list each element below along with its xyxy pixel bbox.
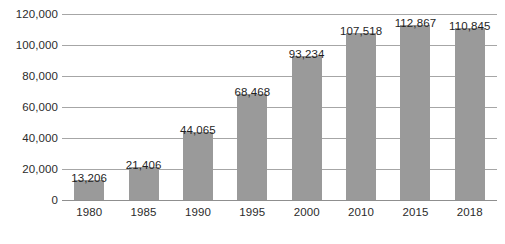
bar-group: 13,206	[62, 14, 116, 200]
x-axis-tick-label: 1980	[62, 206, 116, 218]
bar-group: 44,065	[171, 14, 225, 200]
bar-value-label: 13,206	[71, 172, 107, 184]
bar-group: 21,406	[116, 14, 170, 200]
bar-value-label: 21,406	[126, 159, 162, 171]
y-axis-tick-label: 0	[0, 194, 58, 206]
bar-group: 68,468	[225, 14, 279, 200]
bar-value-label: 110,845	[449, 20, 490, 32]
bar-value-label: 112,867	[395, 17, 436, 29]
x-axis-tick-label: 2010	[334, 206, 388, 218]
x-axis-tick-label: 2018	[443, 206, 497, 218]
y-axis-tick-label: 100,000	[0, 39, 58, 51]
bar-value-label: 107,518	[340, 25, 382, 37]
y-axis-tick-label: 40,000	[0, 132, 58, 144]
bar-chart: 020,00040,00060,00080,000100,000120,000 …	[0, 0, 505, 244]
bar-value-label: 44,065	[180, 124, 216, 136]
bar-value-label: 93,234	[289, 48, 325, 60]
bar	[129, 167, 159, 200]
bar	[455, 28, 485, 200]
x-axis-tick-label: 2015	[388, 206, 442, 218]
plot-area: 13,20621,40644,06568,46893,234107,518112…	[62, 14, 497, 200]
bar-group: 112,867	[388, 14, 442, 200]
y-axis-tick-label: 80,000	[0, 70, 58, 82]
y-axis-tick-label: 20,000	[0, 163, 58, 175]
x-axis-tick-label: 1995	[225, 206, 279, 218]
bar	[346, 33, 376, 200]
bar-value-label: 68,468	[234, 86, 270, 98]
bar-group: 110,845	[443, 14, 497, 200]
bar	[183, 132, 213, 200]
y-axis-tick-label: 120,000	[0, 8, 58, 20]
bar	[292, 56, 322, 201]
bar	[237, 94, 267, 200]
bar	[400, 25, 430, 200]
bar-group: 93,234	[280, 14, 334, 200]
x-axis-tick-label: 1985	[116, 206, 170, 218]
x-axis-tick-label: 1990	[171, 206, 225, 218]
x-axis-tick-label: 2000	[280, 206, 334, 218]
y-axis-tick-label: 60,000	[0, 101, 58, 113]
bar-group: 107,518	[334, 14, 388, 200]
